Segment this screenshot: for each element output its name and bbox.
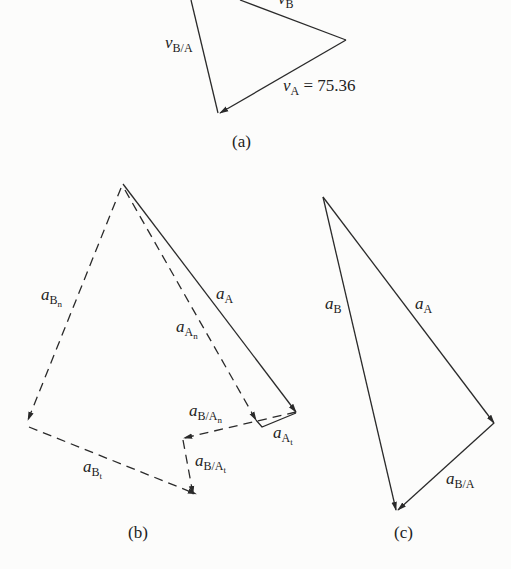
label-a-Bn: aBn [41, 285, 63, 309]
vector-a-A-arrow-c [323, 197, 494, 423]
panel-c-acceleration-polygon: aB aA aB/A (c) [323, 197, 494, 542]
vector-a-Bn-arrow [28, 188, 121, 420]
label-a-A: aA [216, 284, 234, 306]
vector-a-An-arrow [125, 190, 256, 420]
label-a-An: aAn [176, 317, 198, 341]
panel-a-velocity-polygon: vB vB/A vA = 75.36 (a) [165, 0, 356, 151]
panel-b-acceleration-components: aBn aA aAn aB/An aAt aB/At aBt (b) [28, 184, 296, 542]
label-a-Bt: aBt [83, 457, 103, 481]
label-a-BA-c: aB/A [446, 469, 475, 491]
vector-diagram-figure: vB vB/A vA = 75.36 (a) aBn aA aAn aB/An … [0, 0, 511, 569]
vector-a-BA-arrow-c [398, 423, 494, 510]
label-a-B-c: aB [325, 294, 342, 316]
caption-b: (b) [128, 523, 148, 542]
caption-c: (c) [394, 523, 413, 542]
label-v-B: vB [278, 0, 294, 11]
label-v-BA: vB/A [165, 33, 193, 55]
label-a-BAt: aB/At [195, 451, 227, 475]
vector-a-Bt-arrow [29, 427, 196, 494]
label-a-BAn: aB/An [189, 401, 223, 425]
caption-a: (a) [232, 132, 251, 151]
label-a-At: aAt [273, 423, 293, 447]
vector-v-BA-line [191, 0, 218, 113]
label-a-A-c: aA [415, 294, 433, 316]
vector-a-BAt-arrow [183, 440, 193, 494]
label-v-A: vA = 75.36 [283, 76, 356, 98]
vector-a-B-arrow-c [323, 197, 396, 510]
vector-a-A-arrow [123, 184, 296, 412]
